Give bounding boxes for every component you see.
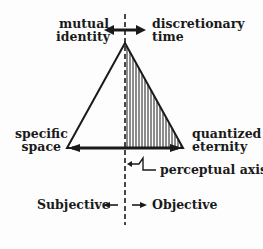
label-specific-space: specific space — [15, 127, 61, 153]
label-quantized-eternity: quantized eternity — [192, 127, 261, 153]
base-left-arrowhead-icon — [68, 144, 80, 152]
label-line: eternity — [192, 140, 261, 153]
label-mutual-identity: mutual identity — [56, 17, 110, 43]
label-line: identity — [56, 30, 110, 43]
label-line: space — [15, 140, 61, 153]
label-perceptual-axis: perceptual axis — [160, 163, 263, 176]
label-objective: Objective — [152, 198, 217, 211]
label-line: time — [152, 30, 245, 43]
objective-arrow-icon — [140, 202, 147, 208]
label-subjective: Subjective — [37, 198, 110, 211]
label-discretionary-time: discretionary time — [152, 17, 245, 43]
pointer-arrow-icon — [127, 161, 132, 167]
right-arrowhead-icon — [136, 25, 146, 35]
triangle-diagram: mutual identity discretionary time speci… — [0, 0, 263, 249]
